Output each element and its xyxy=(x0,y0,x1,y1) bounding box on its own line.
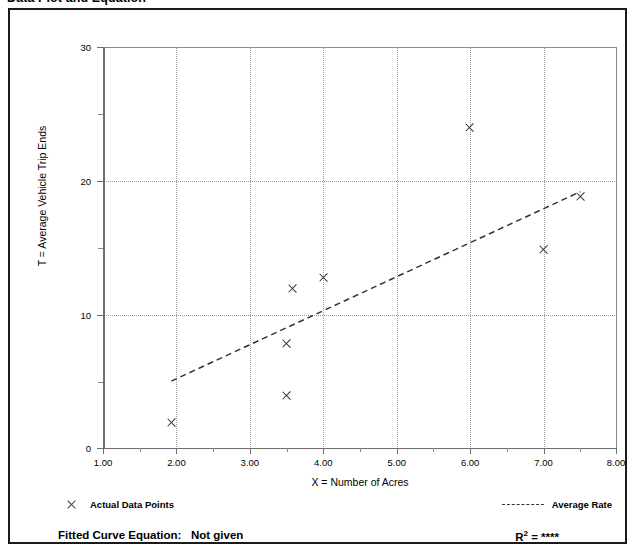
average-rate-trend-line xyxy=(103,47,617,449)
figure-panel: Data Plot and Equation xyxy=(0,0,635,553)
xtick-label-7: 7.00 xyxy=(534,457,553,468)
fitted-curve-equation: Fitted Curve Equation: Not given xyxy=(58,529,243,541)
x-marker-icon xyxy=(66,499,77,510)
legend-entry-average-rate: Average Rate xyxy=(502,499,612,510)
legend: Actual Data Points Average Rate xyxy=(18,499,635,521)
xtick-label-1: 1.00 xyxy=(94,457,113,468)
fitted-curve-value: Not given xyxy=(191,529,243,541)
legend-label-average-rate: Average Rate xyxy=(552,499,612,510)
r-squared-exponent: 2 xyxy=(524,529,528,538)
ytick-label-20: 20 xyxy=(80,176,91,187)
xtick-label-8: 8.00 xyxy=(607,457,626,468)
x-axis-title: X = Number of Acres xyxy=(103,476,617,488)
legend-label-data-points: Actual Data Points xyxy=(90,499,174,510)
xtick-label-2: 2.00 xyxy=(167,457,186,468)
ytick-label-30: 30 xyxy=(80,42,91,53)
xtick-label-6: 6.00 xyxy=(461,457,480,468)
y-axis-title: T = Average Vehicle Trip Ends xyxy=(36,66,48,326)
r-squared-equals: = xyxy=(531,531,538,543)
ytick-label-10: 10 xyxy=(80,310,91,321)
fitted-curve-label: Fitted Curve Equation: xyxy=(58,529,181,541)
figure-footer: Fitted Curve Equation: Not given R2 = **… xyxy=(18,529,635,553)
plot-area: 1.00 2.00 3.00 4.00 5.00 6.00 7.00 8.00 … xyxy=(103,47,617,449)
xtick-label-4: 4.00 xyxy=(314,457,333,468)
xtick-label-3: 3.00 xyxy=(241,457,260,468)
legend-entry-data-points: Actual Data Points xyxy=(66,499,174,510)
trend-line-segment xyxy=(171,192,580,381)
r-squared-value: R2 = **** xyxy=(515,529,559,543)
r-squared-number: **** xyxy=(541,531,559,543)
ytick-label-0: 0 xyxy=(86,443,91,454)
r-squared-label: R xyxy=(515,531,523,543)
figure-title: Data Plot and Equation xyxy=(7,0,146,5)
xtick-label-5: 5.00 xyxy=(387,457,406,468)
dashed-line-icon xyxy=(502,504,544,505)
figure-card-border: 1.00 2.00 3.00 4.00 5.00 6.00 7.00 8.00 … xyxy=(8,8,627,544)
